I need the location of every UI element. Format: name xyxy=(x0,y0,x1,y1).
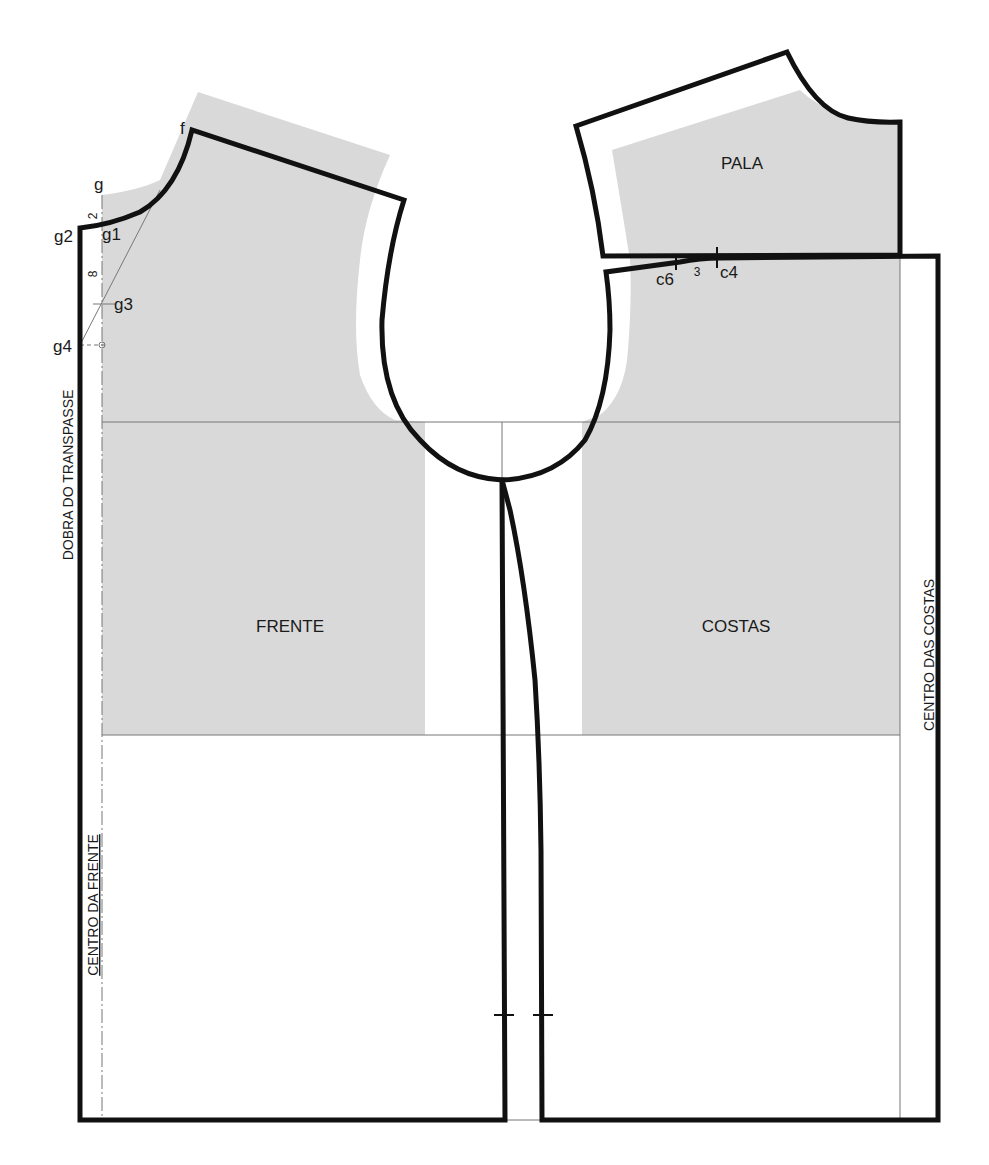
front-label: FRENTE xyxy=(256,617,324,636)
back-block-shading xyxy=(582,90,900,735)
back-label: COSTAS xyxy=(702,617,771,636)
point-c4-label: c4 xyxy=(720,263,738,282)
measure-g1-g3: 8 xyxy=(86,270,100,277)
point-g2-label: g2 xyxy=(54,227,73,246)
center-back-label: CENTRO DAS COSTAS xyxy=(921,579,937,731)
point-g3-label: g3 xyxy=(114,295,133,314)
yoke-label: PALA xyxy=(721,154,764,173)
point-g4-label: g4 xyxy=(53,337,72,356)
pattern-diagram: FRENTE COSTAS PALA f g g2 g1 g3 g4 c6 c4… xyxy=(0,0,989,1165)
point-g-label: g xyxy=(94,175,103,194)
point-f-label: f xyxy=(180,119,185,138)
point-g1-label: g1 xyxy=(102,225,121,244)
measure-g-g1: 2 xyxy=(86,212,100,219)
center-front-label: CENTRO DA FRENTE xyxy=(85,834,101,976)
measure-c6-c4: 3 xyxy=(694,265,701,279)
point-c6-label: c6 xyxy=(656,270,674,289)
front-fold-label: DOBRA DO TRANSPASSE xyxy=(60,390,76,561)
